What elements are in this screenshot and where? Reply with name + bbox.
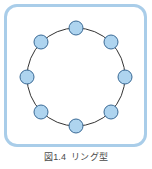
ring-node-n3	[118, 70, 132, 84]
node-layer	[20, 21, 132, 133]
ring-node-n6	[34, 105, 48, 119]
ring-node-n8	[34, 35, 48, 49]
figure-container: 図1.4リング型	[0, 0, 152, 169]
ring-node-n1	[69, 21, 83, 35]
ring-node-n7	[20, 70, 34, 84]
figure-caption: 図1.4リング型	[0, 150, 152, 164]
ring-node-n4	[104, 105, 118, 119]
ring-topology-diagram	[0, 0, 152, 152]
figure-caption-label: 図1.4	[44, 152, 66, 162]
figure-caption-title: リング型	[71, 152, 108, 162]
ring-node-n5	[69, 119, 83, 133]
ring-node-n2	[104, 35, 118, 49]
